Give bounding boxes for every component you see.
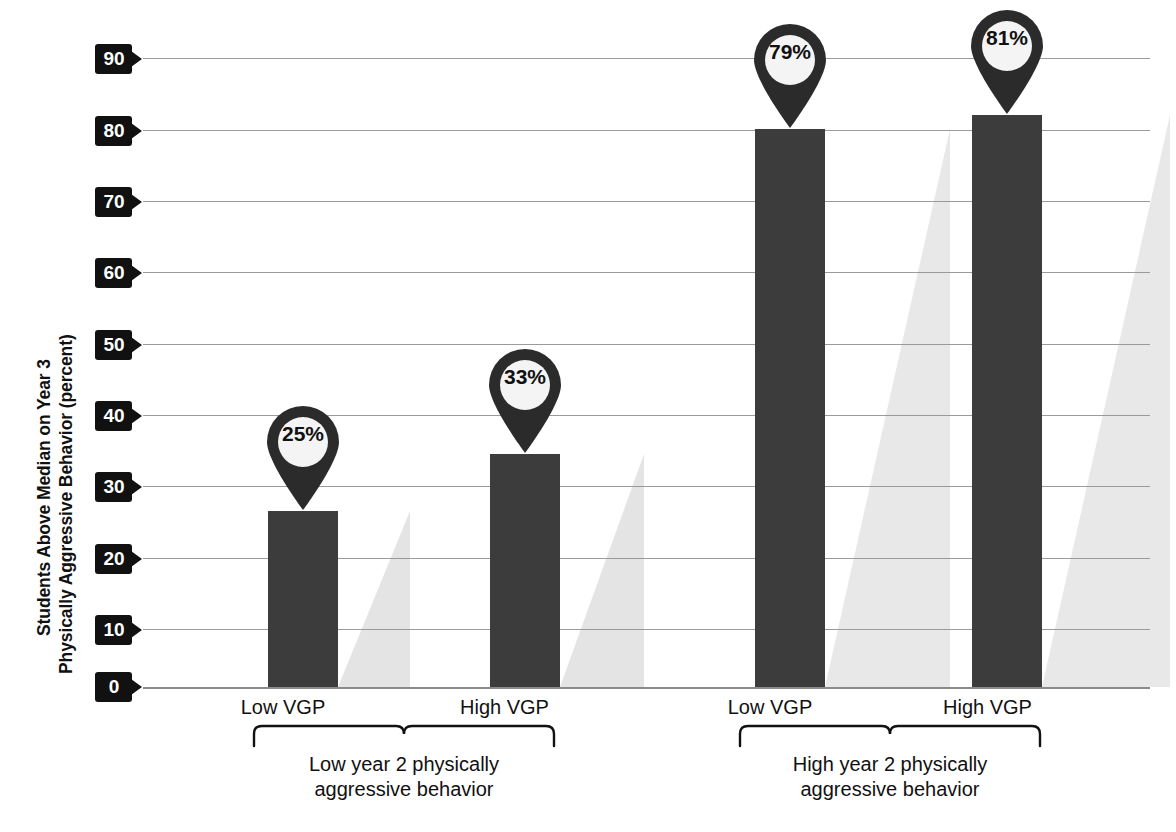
data-label-pin-81-text: 81%	[963, 26, 1051, 50]
y-tick-20-arrow-icon	[131, 551, 142, 567]
bar-low-vgp-low-year2[interactable]	[268, 511, 338, 687]
y-tick-0-label: 0	[95, 672, 132, 702]
y-tick-80: 80	[95, 116, 142, 146]
group-bracket-2	[738, 724, 1042, 746]
group-label-1: Low year 2 physically aggressive behavio…	[254, 752, 554, 802]
y-axis-title: Students Above Median on Year 3 Physical…	[0, 0, 72, 700]
y-tick-90-arrow-icon	[131, 51, 142, 67]
y-tick-20: 20	[95, 544, 142, 574]
data-label-pin-79-text: 79%	[746, 40, 834, 64]
y-tick-60-arrow-icon	[131, 265, 142, 281]
y-tick-10-label: 10	[95, 615, 132, 645]
y-tick-90-label: 90	[95, 44, 132, 74]
bar-chart: Students Above Median on Year 3 Physical…	[0, 0, 1176, 832]
y-tick-70-arrow-icon	[131, 194, 142, 210]
group-label-2-line-1: High year 2 physically	[740, 752, 1040, 777]
y-tick-30-arrow-icon	[131, 479, 142, 495]
gridline-0-baseline	[143, 687, 1150, 689]
bar-shadow-1	[338, 511, 410, 687]
data-label-pin-25: 25%	[259, 400, 347, 512]
data-label-pin-81: 81%	[963, 4, 1051, 116]
y-tick-50: 50	[95, 330, 142, 360]
data-label-pin-33-text: 33%	[481, 365, 569, 389]
y-tick-10-arrow-icon	[131, 622, 142, 638]
y-tick-70-label: 70	[95, 187, 132, 217]
y-tick-80-arrow-icon	[131, 123, 142, 139]
y-tick-80-label: 80	[95, 116, 132, 146]
y-tick-0-arrow-icon	[131, 679, 142, 695]
x-label-low-vgp-group-1: Low VGP	[213, 696, 353, 719]
y-tick-20-label: 20	[95, 544, 132, 574]
group-label-1-line-1: Low year 2 physically	[254, 752, 554, 777]
x-label-high-vgp-group-2: High VGP	[915, 696, 1060, 719]
y-tick-40-arrow-icon	[131, 408, 142, 424]
y-tick-40-label: 40	[95, 401, 132, 431]
bar-low-vgp-high-year2[interactable]	[755, 129, 825, 687]
group-label-2: High year 2 physically aggressive behavi…	[740, 752, 1040, 802]
y-tick-10: 10	[95, 615, 142, 645]
y-tick-50-label: 50	[95, 330, 132, 360]
x-label-low-vgp-group-2: Low VGP	[700, 696, 840, 719]
y-tick-0: 0	[95, 672, 142, 702]
y-tick-50-arrow-icon	[131, 337, 142, 353]
bar-shadow-4	[1042, 115, 1170, 687]
y-tick-40: 40	[95, 401, 142, 431]
group-bracket-1	[252, 724, 556, 746]
y-tick-60: 60	[95, 258, 142, 288]
bar-high-vgp-low-year2[interactable]	[490, 454, 560, 687]
y-tick-70: 70	[95, 187, 142, 217]
bar-high-vgp-high-year2[interactable]	[972, 115, 1042, 687]
plot-area: 25% 33% 79% 81%	[143, 30, 1150, 690]
group-label-1-line-2: aggressive behavior	[254, 777, 554, 802]
data-label-pin-33: 33%	[481, 343, 569, 455]
data-label-pin-79: 79%	[746, 18, 834, 130]
group-label-2-line-2: aggressive behavior	[740, 777, 1040, 802]
bar-shadow-3	[825, 129, 950, 687]
bar-shadow-2	[560, 454, 644, 687]
y-axis-title-line-1: Students Above Median on Year 3	[34, 359, 55, 636]
y-tick-60-label: 60	[95, 258, 132, 288]
y-tick-30: 30	[95, 472, 142, 502]
y-tick-30-label: 30	[95, 472, 132, 502]
y-axis-title-line-2: Physically Aggressive Behavior (percent)	[56, 334, 77, 674]
y-tick-90: 90	[95, 44, 142, 74]
data-label-pin-25-text: 25%	[259, 422, 347, 446]
x-label-high-vgp-group-1: High VGP	[432, 696, 577, 719]
